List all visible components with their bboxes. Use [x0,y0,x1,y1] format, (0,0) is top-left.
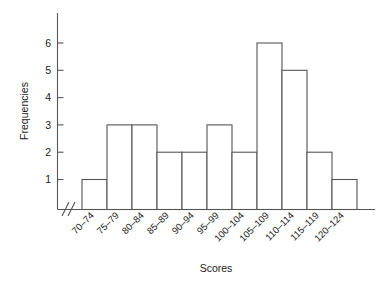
y-axis-tick-labels: 6 5 4 3 2 1 [45,37,51,186]
x-tick-label-85-89: 85–89 [144,210,170,236]
bar-100-104 [232,152,257,209]
y-axis-ticks [58,43,64,180]
chart-canvas: 6 5 4 3 2 1 70–74 7 [0,0,392,283]
x-axis-tick-labels: 70–74 75–79 80–84 85–89 90–94 95–99 100–… [69,210,345,244]
bar-115-119 [307,152,332,209]
x-tick-label-90-94: 90–94 [169,210,195,236]
bars-group [82,43,357,210]
bar-85-89 [157,152,182,209]
x-tick-label-80-84: 80–84 [119,210,145,236]
y-tick-label-1: 1 [45,173,51,185]
x-tick-label-70-74: 70–74 [69,210,95,236]
bar-90-94 [182,152,207,209]
bar-110-114 [282,70,307,209]
y-tick-label-5: 5 [45,64,51,76]
histogram-chart: 6 5 4 3 2 1 70–74 7 [0,0,392,283]
bar-75-79 [107,125,132,210]
x-tick-label-75-79: 75–79 [94,210,120,236]
bar-80-84 [132,125,157,210]
bar-105-109 [257,43,282,210]
y-axis-title: Frequencies [18,82,30,140]
y-tick-label-3: 3 [45,119,51,131]
bar-70-74 [82,180,107,210]
y-tick-label-2: 2 [45,146,51,158]
x-axis-title: Scores [200,262,233,274]
y-tick-label-6: 6 [45,37,51,49]
y-tick-label-4: 4 [45,91,51,103]
bar-95-99 [207,125,232,210]
bar-120-124 [332,180,357,210]
